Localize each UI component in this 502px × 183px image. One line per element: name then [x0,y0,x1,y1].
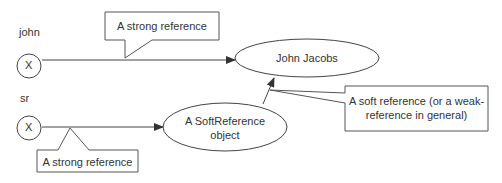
soft-reference-arrow [263,78,274,104]
soft-callout-text-line2: reference in general) [345,108,488,122]
bottom-callout-text: A strong reference [37,155,138,169]
sr-variable-label: sr [20,92,29,104]
sr-x-symbol: X [25,121,32,133]
john-jacobs-label: John Jacobs [245,51,369,65]
softreference-label-line2: object [165,128,285,142]
soft-callout-text-line1: A soft reference (or a weak- [345,94,488,108]
john-x-symbol: X [25,59,32,71]
softreference-label-line1: A SoftReference [165,114,285,128]
top-callout-text: A strong reference [105,19,219,33]
john-variable-label: john [19,26,40,38]
